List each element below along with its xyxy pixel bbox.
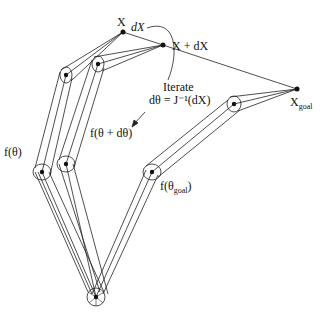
arm-pose-f-theta-dtheta bbox=[57, 45, 163, 297]
label-dx: dX bbox=[131, 21, 144, 33]
label-f-theta-dtheta: f(θ + dθ) bbox=[90, 127, 132, 139]
ik-diagram bbox=[0, 0, 323, 321]
label-x-goal: Xgoal bbox=[290, 96, 312, 108]
arm-pose-f-theta bbox=[33, 32, 123, 297]
label-f-theta: f(θ) bbox=[4, 146, 22, 158]
label-x: X bbox=[117, 16, 126, 28]
point-x bbox=[121, 30, 126, 35]
label-x-plus-dx: X + dX bbox=[172, 40, 208, 52]
label-f-theta-goal: f(θgoal) bbox=[160, 180, 192, 192]
point-x-goal bbox=[295, 87, 300, 92]
arm-pose-f-theta-goal bbox=[92, 89, 297, 297]
label-iterate-formula: dθ = J⁻¹(dX) bbox=[149, 94, 210, 106]
point-x-plus-dx bbox=[161, 43, 166, 48]
iterate-curve bbox=[147, 26, 174, 80]
label-iterate: Iterate bbox=[163, 81, 194, 93]
